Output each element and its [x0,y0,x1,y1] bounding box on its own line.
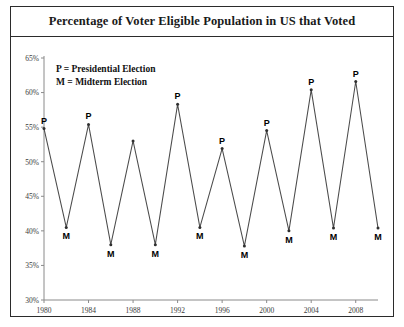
chart-screenshot: Percentage of Voter Eligible Population … [0,0,404,327]
chart-title: Percentage of Voter Eligible Population … [49,14,356,29]
y-tick-label: 35% [25,261,39,270]
x-tick-label: 1992 [170,306,185,315]
data-point-markers [43,80,380,248]
y-tick-label: 65% [25,54,39,63]
x-tick-label: 1980 [37,306,52,315]
y-tick-label: 45% [25,192,39,201]
x-tick-label: 1996 [215,306,230,315]
data-point-marker-2006 [332,227,335,230]
legend-entry: P = Presidential Election [56,64,156,74]
data-point-label-1982: M [63,231,71,241]
y-tick-label: 40% [25,227,39,236]
figure-frame: Percentage of Voter Eligible Population … [10,6,394,317]
x-tick-label: 2008 [348,306,363,315]
data-point-marker-1988 [132,139,135,142]
data-point-marker-1990 [154,243,157,246]
plot-area: 30%35%40%45%50%55%60%65% 198019841988199… [11,37,393,316]
x-tick-label: 1984 [81,306,96,315]
data-point-marker-1984 [87,123,90,126]
data-point-label-2008: P [353,69,359,79]
data-point-marker-1980 [43,127,46,130]
data-point-marker-1986 [109,243,112,246]
data-point-label-1992: P [175,91,181,101]
legend-entry: M = Midterm Election [56,77,148,87]
x-tick-label: 2000 [259,306,274,315]
data-point-label-1980: P [41,116,47,126]
data-point-labels: PMPMMPMPMPMPMPM [41,69,382,261]
x-tick-label: 1988 [126,306,141,315]
chart-title-band: Percentage of Voter Eligible Population … [11,7,393,37]
data-point-label-2006: M [330,232,338,242]
data-point-marker-2000 [265,129,268,132]
data-point-marker-1994 [198,226,201,229]
data-point-label-1998: M [241,250,249,260]
series-line [44,82,378,247]
y-tick-label: 30% [25,296,39,305]
data-point-label-1990: M [152,249,160,259]
data-point-label-1984: P [86,111,92,121]
data-point-label-2002: M [285,235,293,245]
data-point-label-2000: P [264,118,270,128]
data-point-marker-2004 [310,88,313,91]
y-axis-tick-group: 30%35%40%45%50%55%60%65% [25,54,44,305]
data-point-label-2004: P [308,77,314,87]
data-point-label-1994: M [196,231,204,241]
data-point-marker-1998 [243,245,246,248]
voter-turnout-line-chart: 30%35%40%45%50%55%60%65% 198019841988199… [11,37,393,316]
data-point-marker-2002 [287,229,290,232]
x-tick-label: 2004 [304,306,319,315]
chart-legend: P = Presidential ElectionM = Midterm Ele… [56,64,156,87]
data-point-marker-2008 [354,80,357,83]
y-tick-label: 50% [25,158,39,167]
data-point-marker-2010 [377,227,380,230]
data-point-marker-1982 [65,226,68,229]
y-tick-label: 60% [25,88,39,97]
data-point-label-1986: M [107,249,115,259]
data-point-marker-1992 [176,103,179,106]
x-axis-tick-group: 19801984198819921996200020042008 [37,300,364,315]
data-point-label-1996: P [219,136,225,146]
data-point-label-2010: M [374,232,382,242]
y-tick-label: 55% [25,123,39,132]
data-point-marker-1996 [221,147,224,150]
